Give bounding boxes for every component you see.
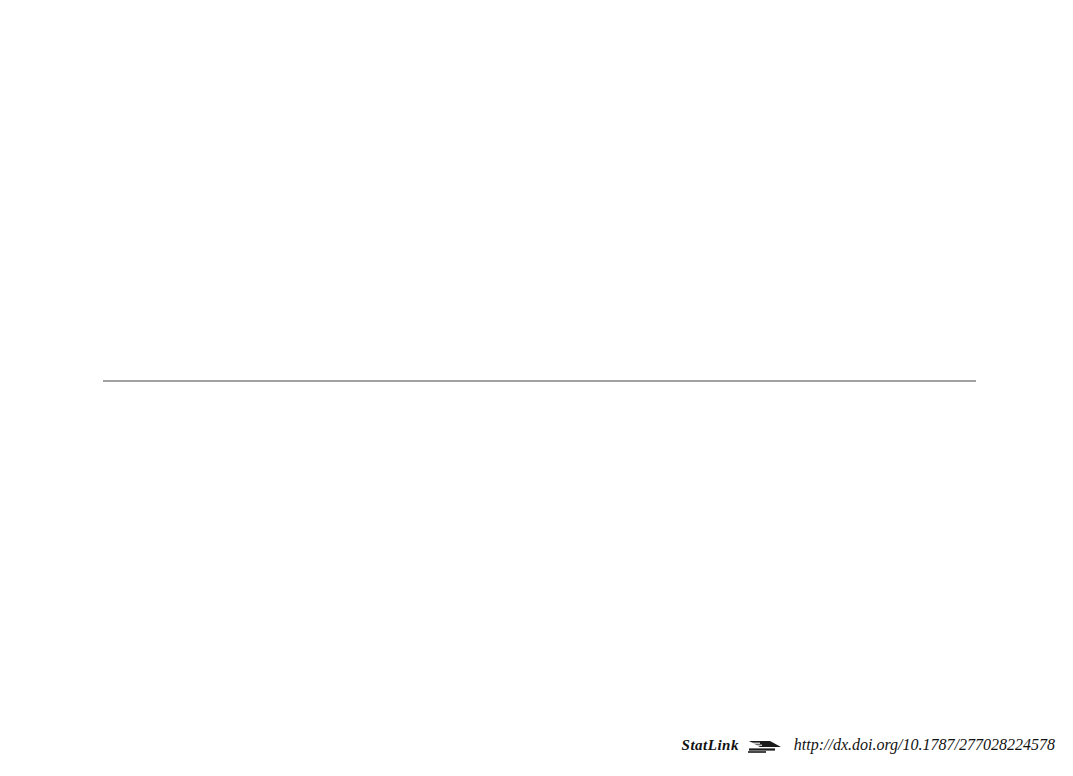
figure-canvas: StatLink http://dx.doi.org/10.1787/27702… <box>0 0 1073 776</box>
statlink-footer: StatLink http://dx.doi.org/10.1787/27702… <box>0 736 1055 757</box>
statlink-label: StatLink <box>682 737 739 753</box>
statlink-url[interactable]: http://dx.doi.org/10.1787/277028224578 <box>794 736 1055 753</box>
chart-plot <box>0 0 1073 730</box>
statlink-icon <box>748 739 782 757</box>
